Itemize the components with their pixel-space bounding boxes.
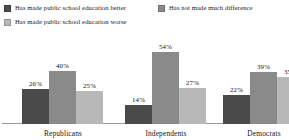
bar-slot[interactable]: 14%	[125, 34, 152, 124]
chart-legend: Has made public school education better …	[0, 0, 289, 34]
bar-rect[interactable]	[152, 52, 179, 124]
legend-item-label: Has made public school education better	[15, 4, 126, 12]
category-label: Republicans	[22, 129, 104, 139]
bar-slot[interactable]: 22%	[223, 34, 250, 124]
legend-swatch-icon	[4, 5, 11, 12]
category-label: Democrats	[223, 129, 289, 139]
bar-group-bars: 14% 54% 27%	[125, 34, 206, 124]
bar-value-label: 22%	[230, 85, 243, 94]
bar-slot[interactable]: 26%	[22, 34, 49, 124]
legend-item-better[interactable]: Has made public school education better	[4, 4, 126, 12]
bar-value-label: 14%	[132, 95, 145, 104]
legend-swatch-icon	[4, 19, 11, 26]
bar-value-label: 26%	[29, 79, 42, 88]
bar-slot[interactable]: 35%	[277, 34, 289, 124]
bar-rect[interactable]	[223, 95, 250, 124]
bar-value-label: 25%	[83, 81, 96, 90]
bar-group-independents: 14% 54% 27% Independents	[125, 34, 207, 140]
bar-rect[interactable]	[277, 77, 289, 124]
bar-value-label: 54%	[159, 42, 172, 51]
bar-rect[interactable]	[76, 91, 103, 124]
bar-value-label: 40%	[56, 61, 69, 70]
bar-slot[interactable]: 54%	[152, 34, 179, 124]
bar-chart-plot: 26% 40% 25% Republicans 14% 54%	[0, 34, 289, 140]
category-label: Independents	[125, 129, 207, 139]
legend-item-label: Has made public school education worse	[15, 18, 127, 26]
bar-value-label: 39%	[257, 62, 270, 71]
bar-group-democrats: 22% 39% 35% Democrats	[223, 34, 289, 140]
bar-value-label: 27%	[186, 78, 199, 87]
bar-slot[interactable]: 25%	[76, 34, 103, 124]
bar-slot[interactable]: 40%	[49, 34, 76, 124]
bar-rect[interactable]	[125, 105, 152, 124]
bar-rect[interactable]	[49, 71, 76, 124]
legend-item-worse[interactable]: Has made public school education worse	[4, 18, 127, 26]
bar-rect[interactable]	[179, 88, 206, 124]
bar-group-bars: 26% 40% 25%	[22, 34, 103, 124]
legend-item-no-difference[interactable]: Has not made much difference	[158, 4, 253, 12]
bar-slot[interactable]: 39%	[250, 34, 277, 124]
legend-item-label: Has not made much difference	[169, 4, 253, 12]
bar-rect[interactable]	[22, 89, 49, 124]
bar-group-republicans: 26% 40% 25% Republicans	[22, 34, 104, 140]
bar-value-label: 35%	[284, 67, 289, 76]
bar-slot[interactable]: 27%	[179, 34, 206, 124]
bar-group-bars: 22% 39% 35%	[223, 34, 289, 124]
legend-swatch-icon	[158, 5, 165, 12]
bar-rect[interactable]	[250, 72, 277, 124]
